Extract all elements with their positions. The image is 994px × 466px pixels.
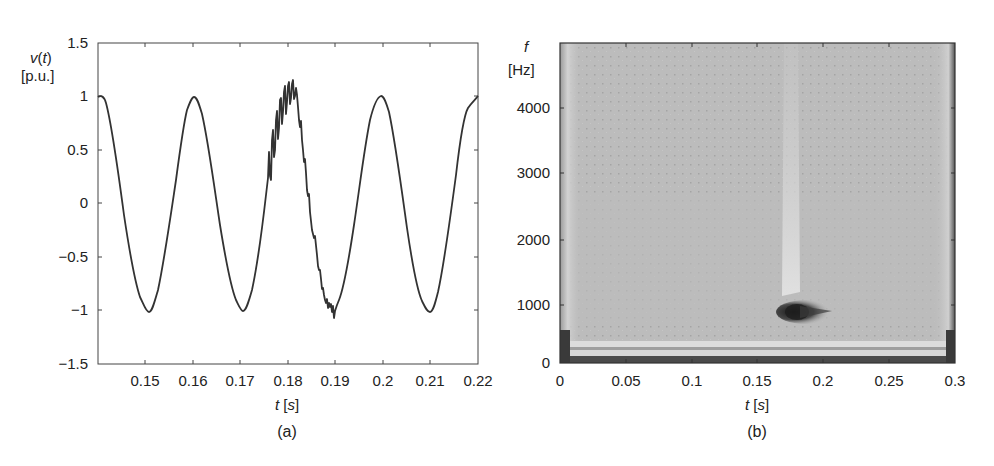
panel-b-xtick: 0 bbox=[556, 372, 564, 389]
panel-a-xtick: 0.22 bbox=[463, 372, 492, 389]
voltage-waveform-line bbox=[98, 80, 478, 318]
panel-a-xtick: 0.18 bbox=[273, 372, 302, 389]
panel-b-ytick: 2000 bbox=[517, 231, 550, 248]
panel-a-y-axis bbox=[98, 96, 478, 310]
panel-a-ytick: −1 bbox=[71, 301, 88, 318]
panel-a-xtick: 0.15 bbox=[130, 372, 159, 389]
panel-a-ytick: −0.5 bbox=[58, 248, 88, 265]
panel-a-caption: (a) bbox=[277, 423, 297, 440]
panel-a-time-series: v(t) [p.u.] 1.5 1 0.5 0 −0.5 −1 −1.5 bbox=[21, 34, 493, 440]
panel-b-ytick: 3000 bbox=[517, 164, 550, 181]
panel-a-ytick: 1 bbox=[80, 87, 88, 104]
panel-b-spectrogram: f [Hz] bbox=[508, 38, 965, 440]
panel-a-xtick: 0.2 bbox=[373, 372, 394, 389]
panel-b-xtick: 0.15 bbox=[742, 372, 771, 389]
panel-b-ylabel-unit: [Hz] bbox=[508, 61, 535, 78]
panel-a-ytick: 1.5 bbox=[67, 34, 88, 51]
figure: v(t) [p.u.] 1.5 1 0.5 0 −0.5 −1 −1.5 bbox=[0, 0, 994, 466]
panel-b-ytick: 1000 bbox=[517, 296, 550, 313]
panel-a-ylabel-var: v(t) bbox=[30, 49, 52, 66]
panel-a-xlabel: t [s] bbox=[275, 396, 299, 413]
panel-b-xtick: 0.2 bbox=[813, 372, 834, 389]
panel-a-ylabel-unit: [p.u.] bbox=[21, 67, 54, 84]
panel-b-ytick: 0 bbox=[542, 354, 550, 371]
panel-b-caption: (b) bbox=[747, 423, 767, 440]
panel-b-xtick: 0.1 bbox=[682, 372, 703, 389]
panel-a-xtick: 0.19 bbox=[320, 372, 349, 389]
panel-b-xlabel: t [s] bbox=[745, 396, 769, 413]
panel-b-xtick: 0.3 bbox=[945, 372, 966, 389]
panel-b-xtick: 0.05 bbox=[611, 372, 640, 389]
panel-a-ytick: 0.5 bbox=[67, 141, 88, 158]
panel-b-ylabel-var: f bbox=[524, 38, 530, 55]
panel-a-xtick: 0.17 bbox=[225, 372, 254, 389]
panel-a-xtick: 0.16 bbox=[178, 372, 207, 389]
panel-a-ytick: −1.5 bbox=[58, 355, 88, 372]
panel-a-ytick: 0 bbox=[80, 194, 88, 211]
spectrogram-image bbox=[560, 43, 955, 363]
panel-b-xtick: 0.25 bbox=[874, 372, 903, 389]
panel-a-xtick: 0.21 bbox=[415, 372, 444, 389]
panel-b-ytick: 4000 bbox=[517, 99, 550, 116]
